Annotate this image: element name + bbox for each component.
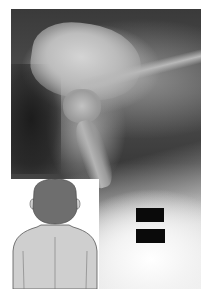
child-back-view-illustration (11, 179, 99, 289)
xray-atlas-vertebra (63, 89, 101, 123)
child-illustration-inset (11, 179, 99, 289)
redaction-bar-bottom (136, 229, 165, 243)
redaction-bar-top (136, 208, 164, 222)
xray-image-frame (11, 9, 201, 289)
child-head (33, 179, 77, 224)
